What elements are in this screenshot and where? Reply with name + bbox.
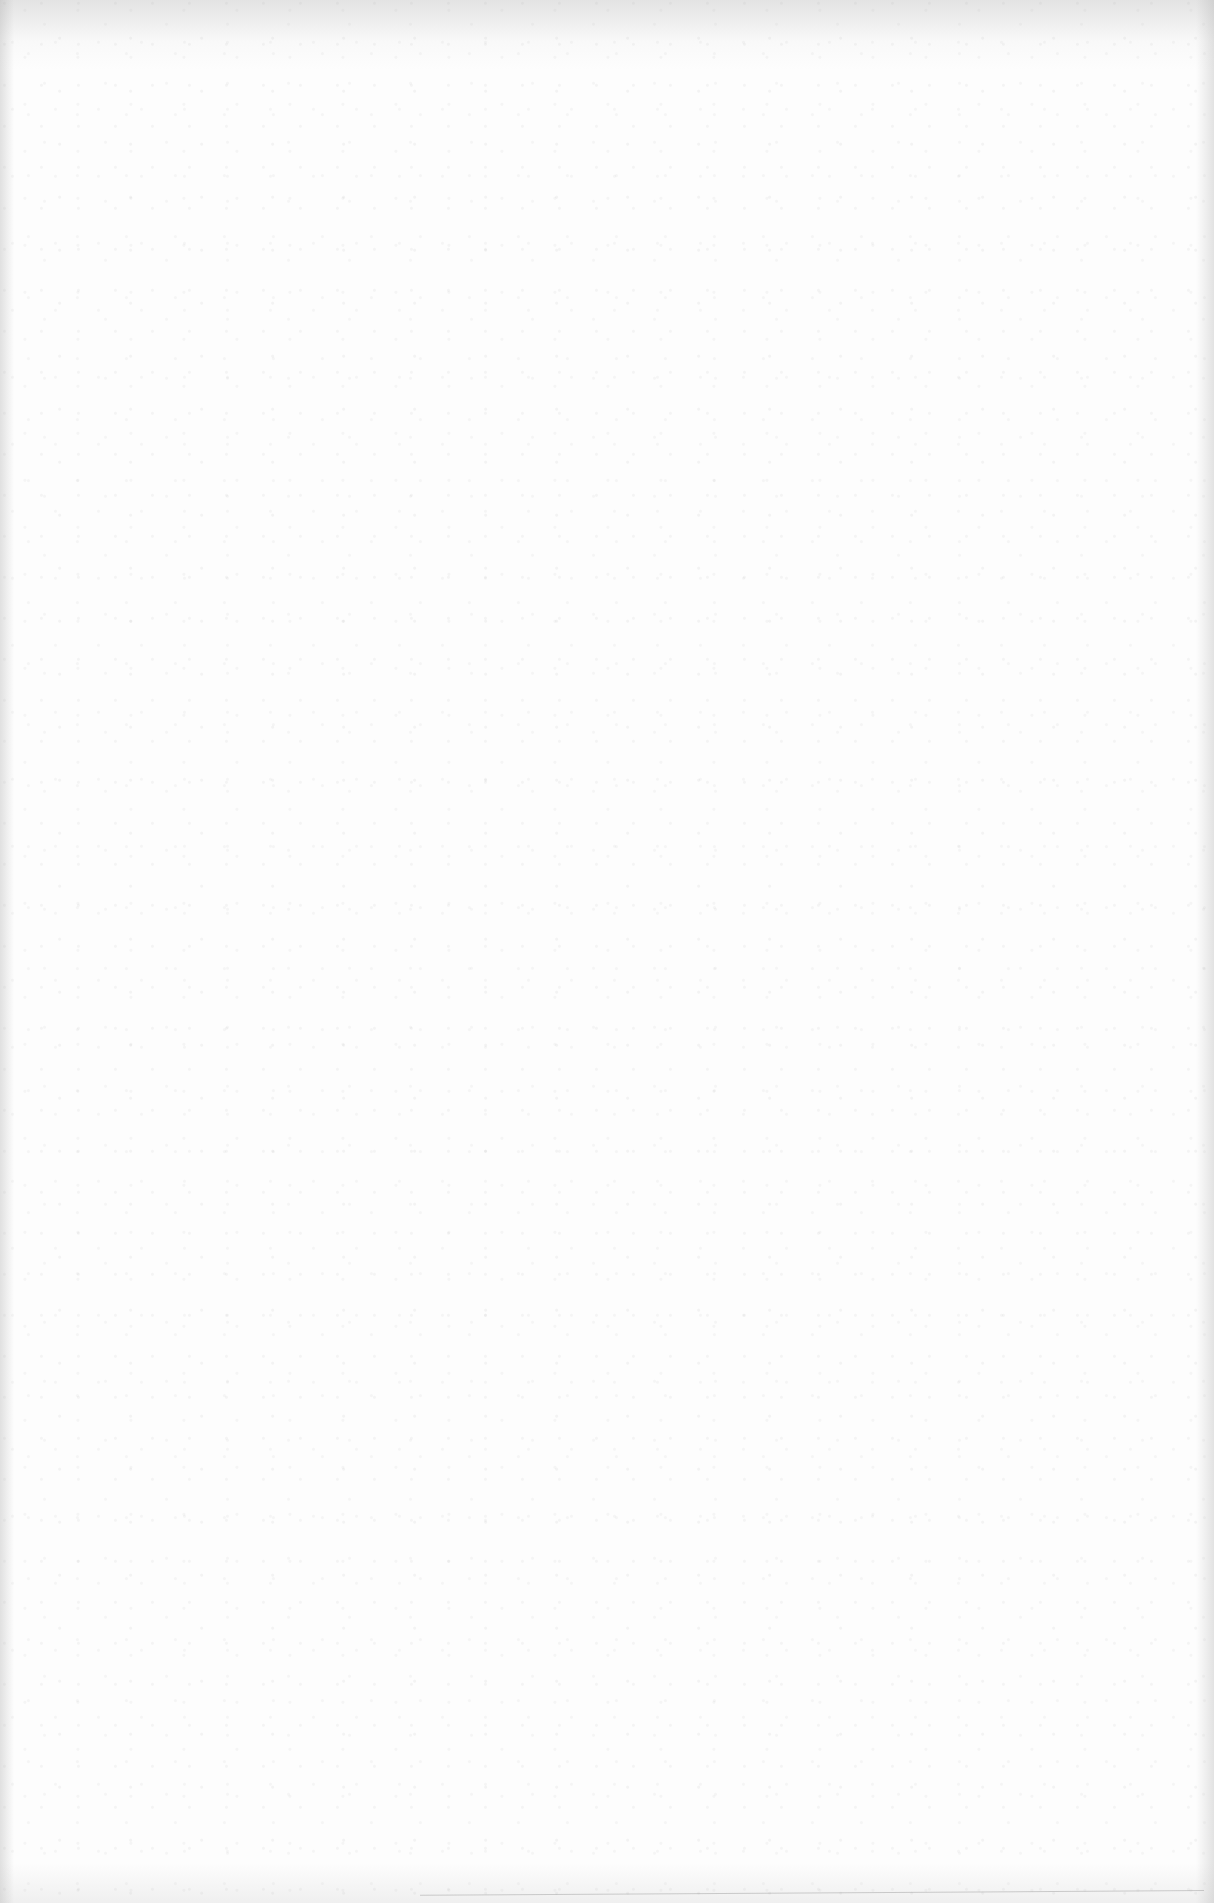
scan-edge-shadow-bottom	[0, 1863, 1214, 1903]
scan-edge-shadow-left	[0, 0, 14, 1903]
blank-scanned-page	[0, 0, 1214, 1903]
scan-edge-shadow-right	[1196, 0, 1214, 1903]
paper-texture	[0, 0, 1214, 1903]
scan-edge-shadow-top	[0, 0, 1214, 70]
